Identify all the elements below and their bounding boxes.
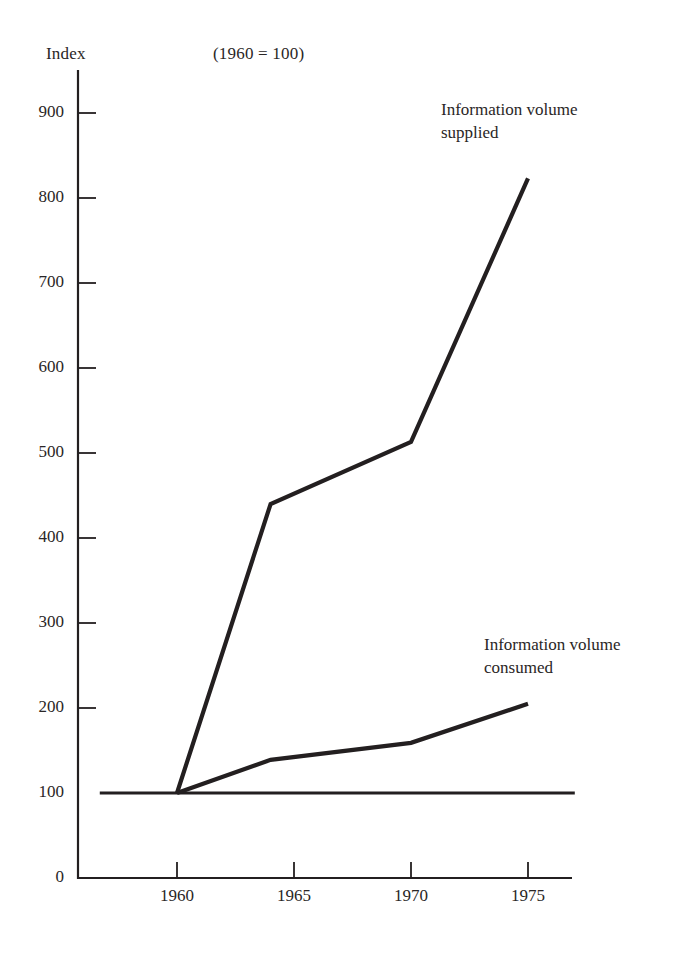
x-tick-label-1970: 1970 [381,886,441,906]
y-tick-label-500: 500 [18,442,64,462]
annotation-consumed-line2: consumed [484,657,620,680]
y-tick-label-300: 300 [18,612,64,632]
y-tick-label-200: 200 [18,697,64,717]
y-tick-label-100: 100 [18,782,64,802]
y-tick-label-700: 700 [18,272,64,292]
y-axis-title: Index [46,44,86,64]
chart-base-note: (1960 = 100) [213,44,304,64]
annotation-consumed-line1: Information volume [484,634,620,657]
y-axis-ticks [78,113,96,708]
annotation-supplied-line2: supplied [441,122,577,145]
y-tick-label-800: 800 [18,187,64,207]
series-line-consumed [177,704,528,793]
y-tick-label-0: 0 [18,867,64,887]
annotation-consumed: Information volume consumed [484,634,620,680]
chart-plot-area [0,0,695,962]
series-line-supplied [177,178,528,793]
y-tick-label-400: 400 [18,527,64,547]
x-tick-label-1965: 1965 [264,886,324,906]
annotation-supplied: Information volume supplied [441,99,577,145]
y-tick-label-900: 900 [18,102,64,122]
y-tick-label-600: 600 [18,357,64,377]
x-tick-label-1975: 1975 [498,886,558,906]
x-tick-label-1960: 1960 [147,886,207,906]
annotation-supplied-line1: Information volume [441,99,577,122]
x-axis-ticks [177,862,528,878]
chart-figure: Index (1960 = 100) [0,0,695,962]
